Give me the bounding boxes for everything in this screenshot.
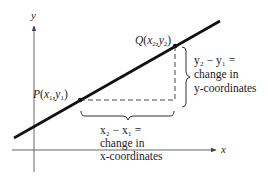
- point-q-label: Q(x2,y2): [135, 34, 171, 48]
- horizontal-change-line1: x₂ − x₁ =: [100, 124, 141, 136]
- vertical-change-line2: change in: [194, 68, 239, 81]
- horizontal-change-line2: change in: [100, 137, 145, 150]
- horizontal-change-line3: x-coordinates: [100, 150, 163, 162]
- y-axis-label: y: [30, 9, 36, 21]
- point-p: [78, 98, 82, 102]
- line-through-points: [14, 21, 220, 138]
- slope-diagram: y x P(x1,y1) Q(x2,y2) y₂ − y₁ = change i…: [0, 0, 268, 178]
- vertical-change-line1: y₂ − y₁ =: [194, 54, 235, 67]
- vertical-brace: [182, 47, 190, 107]
- point-q: [173, 44, 177, 48]
- horizontal-brace: [81, 111, 174, 120]
- point-p-label: P(x1,y1): [32, 88, 68, 102]
- vertical-change-line3: y-coordinates: [194, 82, 257, 95]
- x-axis-label: x: [220, 143, 226, 155]
